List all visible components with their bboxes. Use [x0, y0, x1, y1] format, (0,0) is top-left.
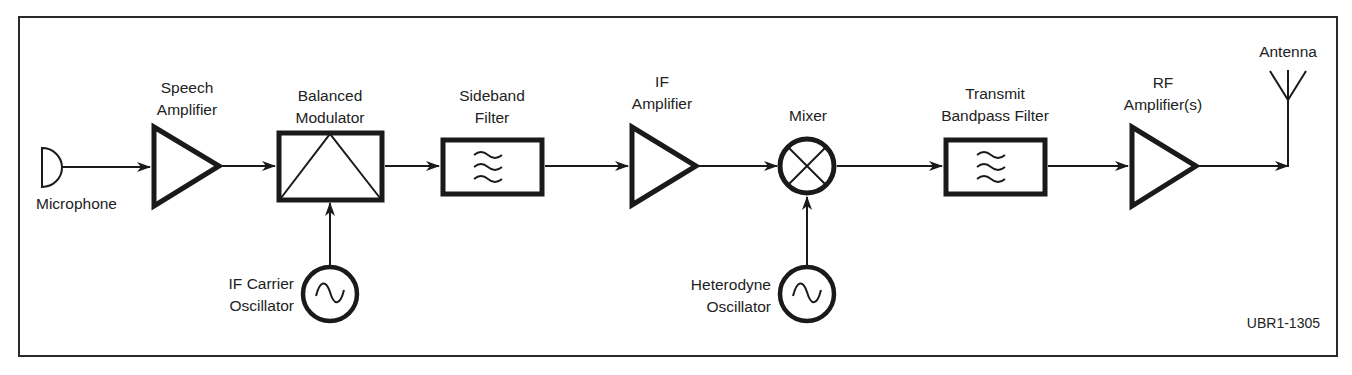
figure-id-label: UBR1-1305 — [1247, 312, 1320, 334]
label-line: Bandpass Filter — [941, 105, 1049, 127]
if-carrier-oscillator-label: IF Carrier Oscillator — [229, 273, 294, 317]
label-line: Transmit — [941, 83, 1049, 105]
label-line: Amplifier(s) — [1124, 94, 1202, 116]
speech-amplifier-icon — [154, 127, 219, 206]
block-diagram — [0, 0, 1352, 375]
figure-id: UBR1-1305 — [1247, 312, 1320, 334]
label-line: Speech — [157, 77, 217, 99]
heterodyne-oscillator-icon — [780, 267, 834, 321]
label-line: Sideband — [459, 85, 525, 107]
antenna-label: Antenna — [1259, 41, 1317, 63]
balanced-modulator-icon — [279, 133, 382, 200]
speech-amplifier-label: Speech Amplifier — [157, 77, 217, 121]
label-line: Microphone — [36, 193, 117, 215]
label-line: Mixer — [789, 105, 827, 127]
microphone-icon — [42, 148, 62, 187]
label-line: IF Carrier — [229, 273, 294, 295]
if-amplifier-label: IF Amplifier — [632, 71, 692, 115]
mixer-icon — [780, 139, 834, 193]
label-line: Oscillator — [691, 296, 771, 318]
label-line: Modulator — [296, 107, 365, 129]
if-amplifier-icon — [632, 127, 696, 205]
label-line: IF — [632, 71, 692, 93]
label-line: Oscillator — [229, 295, 294, 317]
antenna-icon — [1270, 70, 1306, 167]
label-line: RF — [1124, 72, 1202, 94]
balanced-modulator-label: Balanced Modulator — [296, 85, 365, 129]
sideband-filter-label: Sideband Filter — [459, 85, 525, 129]
label-line: Antenna — [1259, 41, 1317, 63]
label-line: Heterodyne — [691, 274, 771, 296]
sideband-filter-icon — [443, 140, 542, 194]
transmit-bandpass-filter-label: Transmit Bandpass Filter — [941, 83, 1049, 127]
rf-amplifier-icon — [1132, 127, 1196, 206]
label-line: Amplifier — [157, 99, 217, 121]
rf-amplifier-label: RF Amplifier(s) — [1124, 72, 1202, 116]
heterodyne-oscillator-label: Heterodyne Oscillator — [691, 274, 771, 318]
if-carrier-oscillator-icon — [303, 267, 357, 321]
label-line: Filter — [459, 107, 525, 129]
mixer-label: Mixer — [789, 105, 827, 127]
label-line: Amplifier — [632, 93, 692, 115]
label-line: Balanced — [296, 85, 365, 107]
transmit-bandpass-filter-icon — [946, 140, 1045, 194]
microphone-label: Microphone — [36, 193, 117, 215]
